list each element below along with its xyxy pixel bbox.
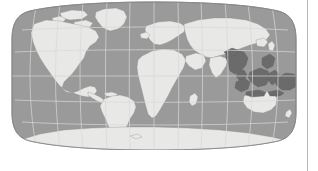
figure-root — [0, 0, 318, 171]
page-vertical-rule — [307, 0, 308, 171]
world-map-figure — [0, 0, 308, 152]
world-map-svg — [0, 0, 308, 152]
figure-bottom-margin — [0, 150, 307, 171]
highlight-melanesia — [296, 82, 305, 91]
